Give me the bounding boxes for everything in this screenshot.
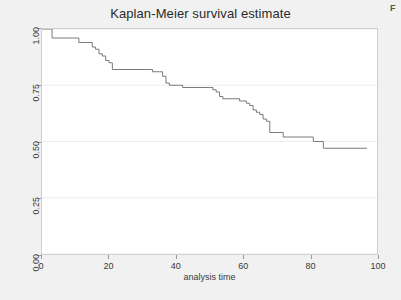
y-axis: 0.000.250.500.751.00 — [0, 28, 41, 255]
x-tick-mark — [378, 255, 379, 259]
y-tick-label: 0.75 — [31, 84, 41, 102]
plot-area — [41, 28, 378, 255]
x-tick-mark — [243, 255, 244, 259]
y-tick-label: 0.25 — [31, 197, 41, 215]
x-tick-label: 0 — [38, 261, 43, 271]
survival-step-line — [42, 29, 367, 148]
x-tick-label: 100 — [370, 261, 385, 271]
x-tick-label: 60 — [238, 261, 248, 271]
survival-curve — [42, 29, 377, 254]
x-tick-mark — [311, 255, 312, 259]
x-tick-label: 20 — [103, 261, 113, 271]
x-tick-mark — [108, 255, 109, 259]
figure-canvas: F Kaplan-Meier survival estimate 0.000.2… — [0, 0, 401, 300]
y-tick-label: 0.50 — [31, 141, 41, 159]
chart-title: Kaplan-Meier survival estimate — [0, 6, 401, 21]
x-axis-title: analysis time — [41, 272, 378, 282]
x-tick-label: 80 — [306, 261, 316, 271]
x-tick-label: 40 — [171, 261, 181, 271]
y-tick-label: 1.00 — [31, 27, 41, 45]
x-tick-mark — [176, 255, 177, 259]
x-tick-mark — [41, 255, 42, 259]
